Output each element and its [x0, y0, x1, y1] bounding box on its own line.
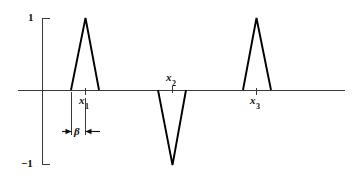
x3-subscript: 3	[256, 102, 260, 111]
pulse-triangle-x2	[158, 90, 186, 165]
triangular-basis-function-figure: 1 −1 x1 x2 x3 β	[0, 0, 353, 179]
y-axis-label-positive-one: 1	[28, 12, 34, 23]
x3-symbol: x	[250, 94, 256, 106]
x2-symbol: x	[166, 71, 172, 83]
x-axis-label-x2: x2	[166, 72, 176, 86]
plot-canvas	[0, 0, 353, 179]
beta-arrowhead-left	[66, 129, 72, 134]
x2-subscript: 2	[172, 79, 176, 88]
y-axis-label-negative-one: −1	[21, 158, 33, 169]
x-axis-label-x3: x3	[250, 95, 260, 109]
beta-arrowhead-right	[86, 129, 92, 134]
x1-symbol: x	[79, 94, 85, 106]
pulse-triangle-x3	[243, 18, 271, 90]
x1-subscript: 1	[85, 102, 89, 111]
pulse-triangle-x1	[71, 18, 99, 90]
x-axis-label-x1: x1	[79, 95, 89, 109]
beta-dimension-label: β	[74, 126, 80, 137]
